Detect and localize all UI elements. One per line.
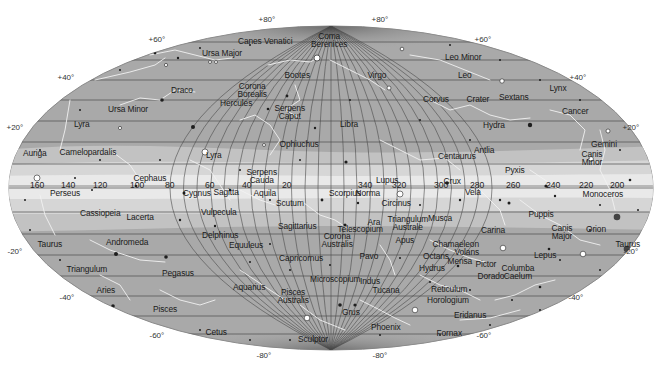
declination-label: -80° (373, 352, 388, 360)
constellation-label: Fornax (437, 329, 462, 337)
galactic-longitude-label: 240 (546, 181, 560, 190)
galactic-longitude-label: 160 (30, 181, 44, 190)
constellation-label: Ursa Major (202, 49, 242, 57)
constellation-label: Ursa Minor (108, 105, 148, 113)
constellation-label: Circinus (382, 199, 411, 207)
constellation-label: Carina (481, 226, 505, 234)
constellation-label: Vela (465, 188, 481, 196)
constellation-label: CanisMajor (552, 224, 573, 240)
declination-label: -20° (8, 248, 23, 256)
constellation-label: Eridanus (454, 311, 486, 319)
declination-label: +40° (570, 74, 587, 82)
declination-label: +60° (149, 36, 166, 44)
constellation-label: Sextans (499, 93, 529, 101)
constellation-label: Norma (356, 189, 381, 197)
galactic-longitude-label: 200 (610, 181, 624, 190)
constellation-label: Dorado (478, 272, 505, 280)
declination-label: -40° (60, 294, 75, 302)
constellation-label: Mensa (448, 257, 473, 265)
constellation-label: Reticulum (431, 285, 467, 293)
constellation-label: CanisMinor (582, 150, 603, 166)
constellation-label: Pisces (153, 305, 177, 313)
constellation-label: Leo (458, 71, 472, 79)
constellation-label: Cancer (562, 107, 588, 115)
declination-label: -60° (477, 332, 492, 340)
constellation-label: Lupus (376, 176, 398, 184)
constellation-label: Aries (97, 286, 116, 294)
constellation-label: Phoenix (371, 323, 401, 331)
declination-label: -80° (257, 352, 272, 360)
constellation-label: Equuleus (229, 241, 263, 249)
constellation-label: Leo Minor (445, 53, 481, 61)
constellation-label: Cygnus (183, 189, 211, 197)
constellation-label: CoronaAustralis (322, 232, 353, 248)
constellation-label: Sagittarius (278, 222, 316, 230)
galactic-longitude-label: 20 (282, 181, 292, 190)
constellation-label: Camelopardalis (60, 148, 117, 156)
constellation-label: Horologium (427, 296, 469, 304)
constellation-label: Lynx (550, 84, 567, 92)
constellation-label: Pegasus (162, 269, 194, 277)
constellation-label: Tucana (373, 286, 400, 294)
constellation-label: Orion (586, 225, 606, 233)
constellation-label: Bootes (285, 71, 310, 79)
constellation-label: Antlia (474, 146, 494, 154)
constellation-label: Canes Venatici (238, 37, 292, 45)
constellation-label: Octans (423, 252, 449, 260)
constellation-label: Pyxis (505, 166, 525, 174)
constellation-label: TriangulumAustrale (388, 215, 429, 231)
constellation-label: Capricornus (279, 254, 323, 262)
constellation-label: ColumbaCaelum (502, 264, 535, 280)
constellation-label: Monoceros (583, 190, 624, 198)
constellation-label: Cetus (206, 328, 227, 336)
constellation-label: Pavo (360, 252, 379, 260)
constellation-label: SerpensCaput (275, 104, 306, 120)
constellation-label: Sculptor (298, 335, 328, 343)
declination-label: +20° (623, 124, 640, 132)
declination-label: +80° (372, 16, 389, 24)
declination-label: +20° (7, 124, 24, 132)
constellation-label: Hydra (483, 121, 505, 129)
constellation-label: Delphinus (202, 231, 238, 239)
constellation-label: Andromeda (106, 238, 148, 246)
constellation-label: Auriga (23, 149, 47, 157)
constellation-label: Libra (340, 120, 358, 128)
constellation-label: Lyra (74, 120, 90, 128)
declination-label: -60° (150, 332, 165, 340)
constellation-label: Crater (467, 95, 490, 103)
constellation-label: Aquarius (233, 283, 265, 291)
constellation-label: ComaBerenices (311, 32, 347, 48)
constellation-label: Lacerta (127, 213, 154, 221)
constellation-label: SerpensCauda (247, 168, 278, 184)
constellation-label: Aquila (254, 189, 277, 197)
declination-label: +40° (58, 74, 75, 82)
constellation-label: Corvus (423, 95, 449, 103)
constellation-label: Virgo (368, 71, 387, 79)
constellation-label: Gemini (591, 140, 617, 148)
constellation-label: Hercules (220, 99, 252, 107)
declination-label: +80° (259, 16, 276, 24)
declination-label: -20° (624, 248, 639, 256)
constellation-label: Crux (444, 177, 461, 185)
constellation-label: Ophiuchus (280, 140, 319, 148)
constellation-label: Centaurus (438, 152, 476, 160)
constellation-label: Pictor (476, 260, 497, 268)
constellation-label: Triangulum (67, 265, 108, 273)
declination-label: -40° (569, 294, 584, 302)
galactic-longitude-label: 80 (165, 181, 175, 190)
constellation-label: Sagitta (214, 188, 239, 196)
constellation-label: Apus (396, 236, 415, 244)
constellation-label: Cephaus (134, 174, 167, 182)
constellation-label: Hydrus (419, 264, 445, 272)
constellation-label: Taurus (616, 240, 641, 248)
galactic-longitude-label: 220 (579, 181, 593, 190)
constellation-label: Lepus (534, 251, 556, 259)
constellation-label: Draco (171, 86, 193, 94)
galactic-longitude-label: 120 (93, 181, 107, 190)
declination-label: +60° (475, 36, 492, 44)
constellation-label: Grus (342, 308, 360, 316)
constellation-label: Cassiopeia (80, 209, 120, 217)
constellation-label: Microscopium (310, 275, 360, 283)
constellation-label: PiscesAustralis (278, 288, 309, 304)
constellation-label: Taurus (38, 240, 63, 248)
